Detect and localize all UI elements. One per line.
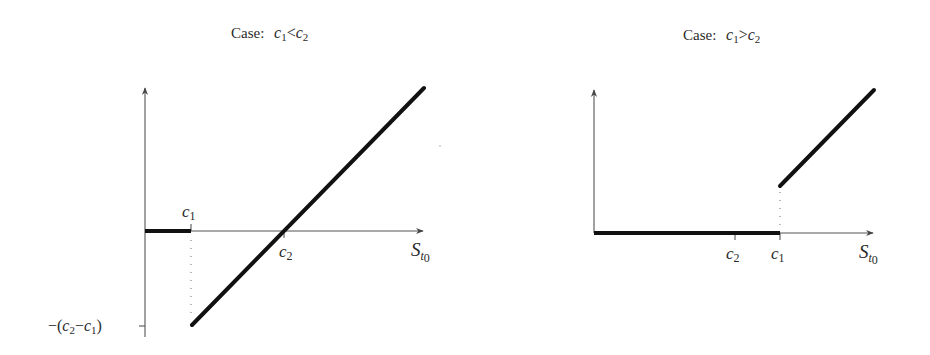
payoff-diagonal-left: [192, 88, 424, 325]
panel-right: Case: c1>c2 c2 c1 St0: [594, 26, 878, 267]
panel-title-right: Case: c1>c2: [683, 26, 760, 45]
y-tick-label-neg-left: −(c2−c1): [48, 317, 102, 336]
x-axis-label-right: St0: [859, 241, 878, 267]
diagram-canvas: Case: c1<c2 c1 c2 St0 −(c2−c1): [0, 0, 930, 355]
panel-left: Case: c1<c2 c1 c2 St0 −(c2−c1): [48, 24, 430, 337]
payoff-diagonal-right: [780, 90, 874, 186]
panel-title-left: Case: c1<c2: [231, 24, 308, 43]
label-c1-right: c1: [771, 244, 785, 265]
x-axis-label-left: St0: [411, 239, 430, 265]
speck-artifact: [439, 145, 440, 146]
label-c2-left: c2: [279, 242, 293, 263]
label-c1-left: c1: [182, 202, 196, 223]
label-c2-right: c2: [726, 244, 740, 265]
